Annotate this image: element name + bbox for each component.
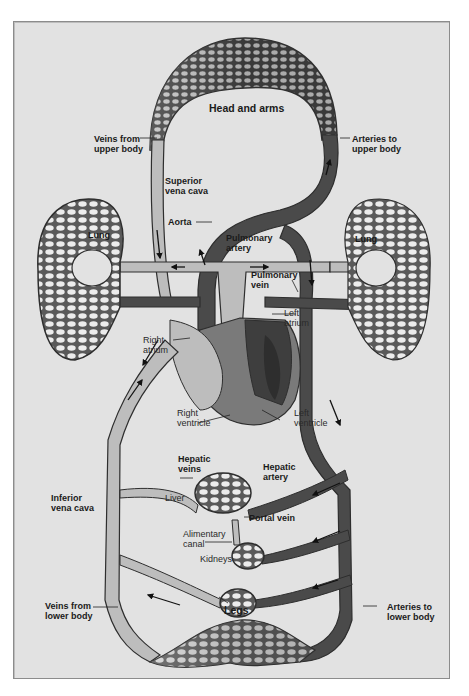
label-pulmonary-vein: Pulmonary vein xyxy=(251,270,298,290)
label-right-ventricle: Right ventricle xyxy=(177,408,211,428)
hepatic-veins-vessel xyxy=(120,488,198,513)
liver xyxy=(195,473,251,513)
label-hepatic-artery: Hepatic artery xyxy=(263,462,296,482)
label-kidneys: Kidneys xyxy=(200,554,232,564)
label-legs: Legs xyxy=(224,604,249,616)
label-left-ventricle: Left ventricle xyxy=(294,408,328,428)
label-lung-right: Lung xyxy=(355,234,377,244)
label-portal-vein: Portal vein xyxy=(249,513,295,523)
label-liver: Liver xyxy=(165,493,185,503)
label-lung-left: Lung xyxy=(88,230,110,240)
label-right-atrium: Right atrium xyxy=(143,335,168,355)
label-veins-lower-body: Veins from lower body xyxy=(45,601,93,621)
label-alimentary-canal: Alimentary canal xyxy=(183,529,226,549)
left-lung xyxy=(38,199,123,360)
label-veins-upper-body: Veins from upper body xyxy=(94,134,143,154)
label-aorta: Aorta xyxy=(168,217,192,227)
label-left-atrium: Left atrium xyxy=(284,308,309,328)
label-pulmonary-artery: Pulmonary artery xyxy=(226,233,273,253)
label-arteries-upper-body: Arteries to upper body xyxy=(352,134,401,154)
alimentary-canal xyxy=(232,543,264,569)
head-capillary-bed xyxy=(150,38,337,150)
label-arteries-lower-body: Arteries to lower body xyxy=(387,602,435,622)
label-hepatic-veins: Hepatic veins xyxy=(178,454,211,474)
label-head-and-arms: Head and arms xyxy=(209,102,284,114)
label-inferior-vena-cava: Inferior vena cava xyxy=(51,493,94,513)
right-lung xyxy=(345,199,430,360)
label-superior-vena-cava: Superior vena cava xyxy=(165,176,208,196)
